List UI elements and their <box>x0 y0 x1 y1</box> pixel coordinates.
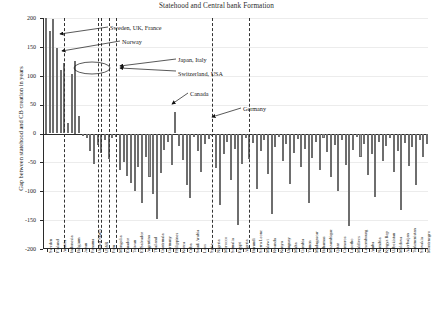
x-tick-label: Sierra Leone <box>258 230 263 253</box>
x-tick-label: Malawi <box>265 239 270 253</box>
bar <box>297 134 299 140</box>
bar <box>263 134 265 141</box>
annotation-label: Germany <box>243 105 266 112</box>
bar <box>315 134 317 142</box>
bar <box>67 123 69 133</box>
x-tick-label: Kyrgyz Rep <box>384 231 389 253</box>
bar <box>367 134 369 176</box>
x-tick-label: Germany <box>167 236 172 253</box>
y-tick-label: 200 <box>10 15 36 21</box>
x-tick-label: USSR <box>104 242 109 253</box>
x-tick-label: Morocco <box>223 237 228 253</box>
x-tick-label: Panama <box>90 239 95 253</box>
x-tick-label: Lesotho <box>349 239 354 253</box>
bar <box>345 134 347 165</box>
x-tick-label: Austria <box>62 240 67 253</box>
x-tick-label: Cuba <box>188 244 193 254</box>
x-tick-label: Thailand <box>153 237 158 253</box>
x-tick-label: Kenya <box>279 241 284 253</box>
bar <box>267 134 269 174</box>
x-tick-label: Malta <box>293 243 298 253</box>
bar <box>359 134 361 157</box>
bar <box>60 70 62 134</box>
x-tick-label: Algeria <box>244 240 249 253</box>
x-tick-label: Madagascar <box>314 231 319 253</box>
bar <box>397 134 399 151</box>
bar <box>186 134 188 186</box>
bar <box>234 134 236 149</box>
bar <box>400 134 402 210</box>
bar <box>123 134 125 163</box>
y-axis-title: Gap between statehood and CB creation in… <box>17 24 24 234</box>
x-tick-label: Aruba <box>370 242 375 253</box>
bar <box>252 134 254 143</box>
x-tick-label: Uzbekistan <box>391 233 396 253</box>
bar <box>167 134 169 142</box>
y-tick-mark <box>40 47 43 48</box>
y-tick-mark <box>40 134 43 135</box>
bar <box>382 134 384 162</box>
bar <box>289 134 291 185</box>
x-tick-label: Egypt <box>237 242 242 253</box>
bar <box>130 134 132 184</box>
bar <box>293 134 295 154</box>
x-tick-label: Syria <box>209 244 214 253</box>
bar <box>330 134 332 178</box>
y-tick-label: -50 <box>10 159 36 165</box>
bar <box>256 134 258 189</box>
y-tick-label: 50 <box>10 101 36 107</box>
annotation-label: Switzerland, USA <box>178 70 223 77</box>
bar <box>245 134 247 139</box>
bar <box>393 134 395 172</box>
y-tick-label: -100 <box>10 188 36 194</box>
bar <box>378 134 380 142</box>
y-tick-label: 0 <box>10 130 36 136</box>
x-tick-label: Finland <box>55 239 60 253</box>
bar <box>137 134 139 167</box>
bar <box>82 134 84 136</box>
bar <box>285 134 287 144</box>
bar <box>86 134 88 139</box>
bar <box>337 134 339 192</box>
bar <box>282 134 284 162</box>
annotation-label: Norway <box>122 38 142 45</box>
bar <box>356 134 358 137</box>
bar <box>230 134 232 180</box>
y-tick-label: -200 <box>10 246 36 252</box>
bar <box>193 134 195 137</box>
x-tick-label: Indonesia <box>69 236 74 253</box>
bar <box>134 134 136 192</box>
reference-line <box>64 18 65 248</box>
plot-inner <box>44 18 428 248</box>
annotation-label: Sweden, UK, France <box>110 24 162 31</box>
bar <box>385 134 387 147</box>
x-tick-label: Philippines <box>174 233 179 253</box>
bar <box>326 134 328 152</box>
x-tick-label: Uruguay <box>286 237 291 253</box>
bar <box>237 134 239 225</box>
bar <box>334 134 336 146</box>
x-tick-label: Nigeria <box>216 240 221 253</box>
bar <box>426 134 428 144</box>
bar <box>274 134 276 148</box>
annotation-label: Canada <box>190 90 209 97</box>
x-tick-label: Taiwan <box>132 240 137 253</box>
bar <box>363 134 365 144</box>
y-tick-mark <box>40 249 43 250</box>
bar <box>223 134 225 155</box>
bar <box>197 134 199 151</box>
x-tick-label: Rwanda <box>272 238 277 253</box>
y-tick-mark <box>40 105 43 106</box>
x-tick-label: Yemen <box>307 240 312 253</box>
bar <box>141 134 143 203</box>
bar <box>319 134 321 171</box>
bar <box>308 134 310 203</box>
x-tick-label: Azerbaijan <box>405 233 410 253</box>
x-tick-label: Maldives <box>356 236 361 253</box>
x-tick-label: Comoros <box>342 237 347 254</box>
x-tick-label: Somalia <box>230 238 235 253</box>
bar <box>145 134 147 157</box>
bar <box>300 134 302 167</box>
reference-line <box>249 18 250 248</box>
bar <box>104 134 106 141</box>
